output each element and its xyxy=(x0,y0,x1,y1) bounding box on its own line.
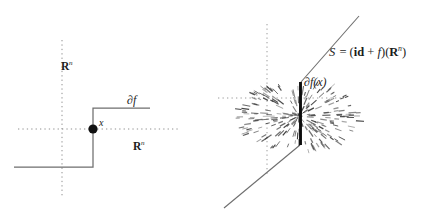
cloud-dash xyxy=(314,125,318,128)
cloud-dash xyxy=(330,120,335,121)
cloud-dash xyxy=(262,135,267,138)
cloud-dash xyxy=(316,143,319,147)
cloud-dash xyxy=(258,127,262,128)
left-vertical-axis-label-base: R xyxy=(61,60,69,72)
cloud-dash xyxy=(325,130,329,132)
surface-formula-S: S xyxy=(329,45,335,59)
cloud-dash xyxy=(339,137,345,140)
cloud-dash xyxy=(310,138,312,142)
surface-formula-plus: + xyxy=(367,45,374,59)
cloud-dash xyxy=(309,130,313,136)
surface-formula-close-paren: ) xyxy=(402,45,406,59)
cloud-dash xyxy=(235,109,241,110)
cloud-dash xyxy=(305,96,306,100)
left-vertical-axis-label-sup: n xyxy=(69,59,73,67)
point-x-label: x xyxy=(99,118,103,128)
cloud-dash xyxy=(325,144,330,149)
surface-formula-id: id xyxy=(354,45,364,59)
surface-formula-R: R xyxy=(389,45,398,59)
cloud-dash xyxy=(333,108,338,109)
cloud-dash xyxy=(273,120,278,121)
cloud-dash xyxy=(265,110,271,111)
cloud-dash xyxy=(270,100,273,102)
cloud-dash xyxy=(330,123,334,124)
step-function-curve xyxy=(14,108,150,167)
cloud-dash xyxy=(278,121,283,123)
cloud-dash xyxy=(356,121,364,122)
cloud-dash xyxy=(287,128,291,133)
surface-formula-equals: = xyxy=(339,45,346,59)
cloud-dash xyxy=(335,129,341,131)
subdifferential-segment-label: ∂f(x) xyxy=(304,76,327,88)
cloud-dash xyxy=(262,119,269,120)
cloud-dash xyxy=(339,110,345,111)
cloud-dash xyxy=(257,139,262,142)
cloud-dash xyxy=(333,125,338,126)
cloud-dash xyxy=(289,118,295,121)
cloud-dash xyxy=(265,123,269,124)
cloud-dash xyxy=(242,128,248,129)
cloud-dash xyxy=(307,117,314,118)
cloud-dash xyxy=(317,89,320,93)
cloud-dash xyxy=(309,95,312,100)
cloud-dash xyxy=(277,127,281,130)
surface-lower-branch xyxy=(224,145,300,208)
cloud-dash xyxy=(348,126,355,127)
cloud-dash xyxy=(348,105,351,106)
cloud-dash xyxy=(287,121,290,123)
cloud-dash xyxy=(252,97,257,99)
cloud-dash xyxy=(333,95,337,97)
cloud-dash xyxy=(329,103,334,105)
cloud-dash xyxy=(314,134,316,137)
cloud-dash xyxy=(280,123,285,126)
cloud-dash xyxy=(308,149,309,153)
cloud-dash xyxy=(336,141,342,145)
cloud-dash xyxy=(340,98,344,100)
cloud-dash xyxy=(260,113,268,114)
cloud-dash xyxy=(273,89,278,94)
cloud-dash xyxy=(322,125,326,126)
cloud-dash xyxy=(283,114,289,115)
cloud-dash xyxy=(334,111,339,112)
cloud-dash xyxy=(276,141,280,147)
figure-svg xyxy=(0,0,426,221)
cloud-dash xyxy=(304,92,305,96)
cloud-dash xyxy=(319,126,324,128)
cloud-dash xyxy=(246,128,251,129)
cloud-dash xyxy=(287,144,288,148)
subdifferential-curve-label: ∂f xyxy=(127,94,136,106)
cloud-dash xyxy=(242,105,250,107)
cloud-dash xyxy=(336,101,339,102)
cloud-dash xyxy=(295,140,296,144)
cloud-dash xyxy=(330,122,334,123)
cloud-dash xyxy=(262,137,268,141)
cloud-dash xyxy=(304,98,307,105)
left-vertical-axis-label: Rn xyxy=(61,60,73,72)
cloud-dash xyxy=(271,124,276,126)
cloud-dash xyxy=(329,84,335,89)
cloud-dash xyxy=(254,131,259,133)
cloud-dash xyxy=(319,139,322,143)
left-horizontal-axis-label: Rn xyxy=(133,140,145,152)
cloud-dash xyxy=(258,98,261,99)
cloud-dash xyxy=(345,96,348,97)
cloud-dash xyxy=(311,120,316,122)
cloud-dash xyxy=(311,100,317,105)
cloud-dash xyxy=(305,141,306,144)
left-horizontal-axis-label-sup: n xyxy=(141,139,145,147)
cloud-dash xyxy=(349,130,353,131)
left-horizontal-axis-label-base: R xyxy=(133,140,141,152)
cloud-dash xyxy=(239,127,244,128)
cloud-dash xyxy=(315,106,321,109)
cloud-dash xyxy=(295,131,296,137)
cloud-dash xyxy=(273,121,277,122)
cloud-dash xyxy=(276,105,283,108)
cloud-dash xyxy=(343,95,347,97)
cloud-dash xyxy=(330,137,334,139)
cloud-dash xyxy=(277,114,282,115)
cloud-dash xyxy=(307,90,310,97)
cloud-dash xyxy=(244,124,251,125)
cloud-dash xyxy=(293,106,297,112)
cloud-dash xyxy=(342,121,347,122)
cloud-dash xyxy=(320,119,327,120)
